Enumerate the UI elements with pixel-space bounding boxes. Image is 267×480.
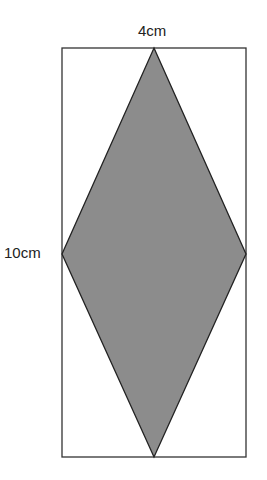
height-label: 10cm: [4, 244, 41, 261]
diagram-canvas: [0, 0, 267, 480]
width-label: 4cm: [138, 22, 166, 39]
rhombus-shape: [62, 48, 246, 457]
